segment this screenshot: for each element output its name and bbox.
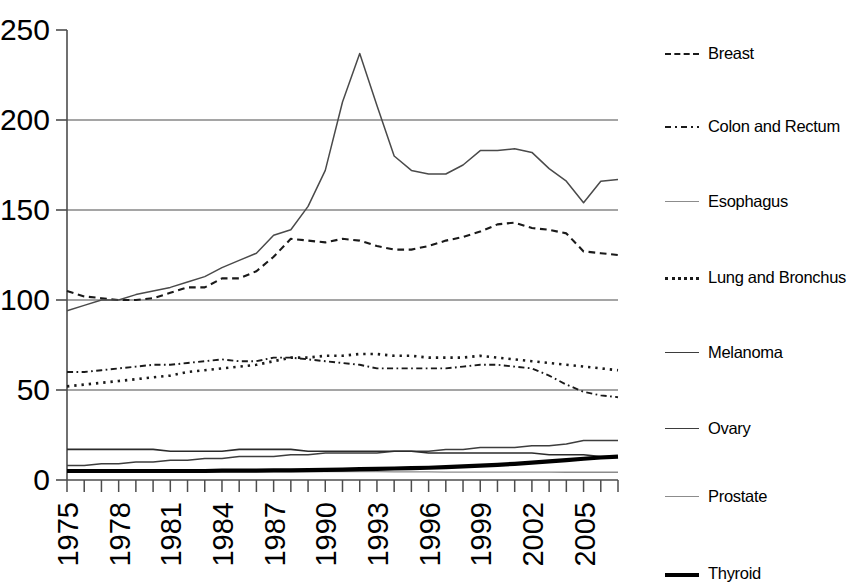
x-tick-label: 1999 xyxy=(465,502,497,567)
y-tick-label: 200 xyxy=(0,103,50,136)
legend-swatch-icon xyxy=(665,566,699,580)
legend-item-label: Prostate xyxy=(708,487,767,506)
legend-item-esophagus[interactable]: Esophagus xyxy=(665,190,788,212)
incidence-rate-line-chart: 0501001502002501975197819811984198719901… xyxy=(0,0,857,588)
x-tick-label: 1990 xyxy=(310,502,342,567)
legend-item-label: Melanoma xyxy=(708,343,783,362)
x-tick-label: 1996 xyxy=(414,502,446,567)
legend-item-melanoma[interactable]: Melanoma xyxy=(665,341,783,363)
legend-item-prostate[interactable]: Prostate xyxy=(665,485,767,507)
legend-item-thyroid[interactable]: Thyroid xyxy=(665,562,761,584)
y-tick-label: 0 xyxy=(33,463,50,496)
x-tick-label: 2002 xyxy=(517,502,549,567)
legend-item-label: Thyroid xyxy=(708,564,761,583)
series-line-colon-and-rectum xyxy=(67,358,618,398)
legend-item-label: Esophagus xyxy=(708,192,788,211)
x-tick-label: 2005 xyxy=(569,502,601,567)
chart-legend: BreastColon and RectumEsophagusLung and … xyxy=(665,42,857,562)
legend-swatch-icon xyxy=(665,194,699,208)
legend-swatch-icon xyxy=(665,489,699,503)
y-tick-label: 250 xyxy=(0,13,50,46)
x-tick-label: 1975 xyxy=(52,502,84,567)
x-tick-label: 1981 xyxy=(155,502,187,567)
x-tick-label: 1984 xyxy=(207,502,239,567)
legend-item-ovary[interactable]: Ovary xyxy=(665,417,751,439)
x-tick-label: 1987 xyxy=(259,502,291,567)
legend-swatch-icon xyxy=(665,345,699,359)
legend-item-lung-and-bronchus[interactable]: Lung and Bronchus xyxy=(665,266,846,288)
series-line-prostate xyxy=(67,53,618,310)
legend-item-label: Lung and Bronchus xyxy=(708,268,846,287)
y-tick-label: 150 xyxy=(0,193,50,226)
legend-swatch-icon xyxy=(665,119,699,133)
y-tick-label: 50 xyxy=(17,373,50,406)
series-line-thyroid xyxy=(67,457,618,471)
legend-item-label: Breast xyxy=(708,44,754,63)
legend-swatch-icon xyxy=(665,421,699,435)
legend-item-breast[interactable]: Breast xyxy=(665,42,754,64)
legend-swatch-icon xyxy=(665,270,699,284)
legend-item-colon-and-rectum[interactable]: Colon and Rectum xyxy=(665,115,840,137)
legend-swatch-icon xyxy=(665,46,699,60)
x-tick-label: 1978 xyxy=(104,502,136,567)
series-line-breast xyxy=(67,223,618,300)
legend-item-label: Colon and Rectum xyxy=(708,117,840,136)
x-tick-label: 1993 xyxy=(362,502,394,567)
legend-item-label: Ovary xyxy=(708,419,751,438)
y-tick-label: 100 xyxy=(0,283,50,316)
